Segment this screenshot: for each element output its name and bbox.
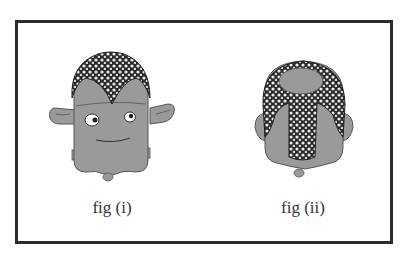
- creature-front-illustration: [40, 40, 190, 190]
- caption-fig-ii: fig (ii): [281, 198, 325, 218]
- figure-front-view: [40, 40, 190, 190]
- creature-back-illustration: [235, 45, 375, 190]
- figure-back-view: [235, 45, 375, 190]
- right-eye: [125, 112, 136, 122]
- bald-crown: [279, 68, 323, 94]
- caption-fig-i: fig (i): [92, 198, 131, 218]
- left-eye: [85, 114, 99, 126]
